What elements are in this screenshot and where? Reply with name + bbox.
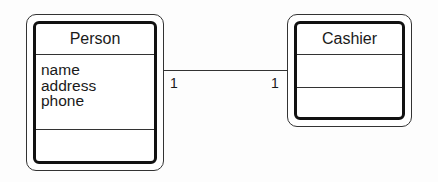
- class-person-box: Person name address phone: [33, 21, 157, 164]
- attribute: address: [41, 78, 96, 94]
- multiplicity-cashier: 1: [271, 75, 279, 91]
- class-name: Cashier: [297, 30, 402, 48]
- attributes-divider: [297, 87, 402, 88]
- class-name: Person: [36, 30, 154, 48]
- class-cashier: Cashier: [287, 14, 412, 127]
- multiplicity-person: 1: [170, 75, 178, 91]
- association-line: [164, 70, 287, 71]
- attributes-divider: [36, 129, 154, 130]
- name-divider: [297, 54, 402, 55]
- name-divider: [36, 54, 154, 55]
- attribute: name: [41, 62, 96, 78]
- attribute-list: name address phone: [41, 62, 96, 109]
- class-cashier-box: Cashier: [294, 21, 405, 120]
- attribute: phone: [41, 93, 96, 109]
- class-person: Person name address phone: [26, 14, 164, 171]
